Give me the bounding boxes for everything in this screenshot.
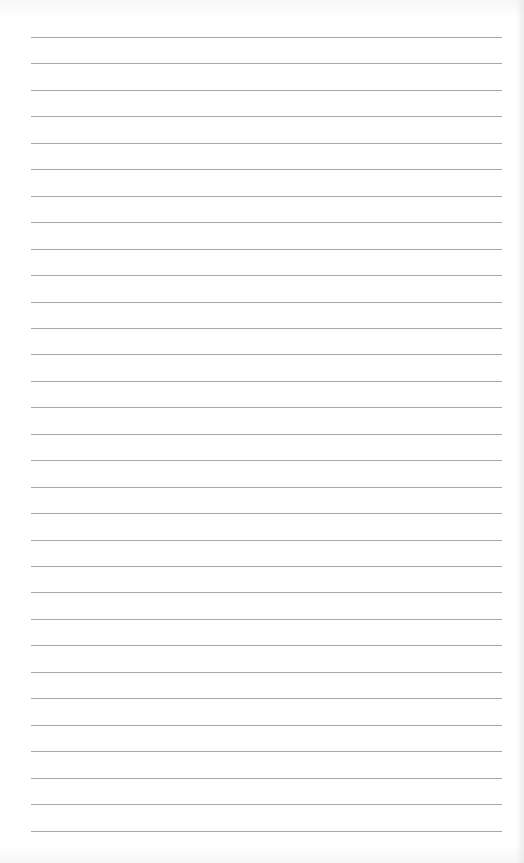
ruled-line [31,725,502,726]
ruled-line [31,328,502,329]
ruled-line [31,222,502,223]
ruled-line [31,592,502,593]
ruled-line [31,169,502,170]
ruled-line [31,778,502,779]
ruled-line [31,645,502,646]
ruled-line [31,831,502,832]
ruled-line [31,434,502,435]
ruled-line [31,249,502,250]
ruled-line [31,143,502,144]
ruled-line [31,460,502,461]
ruled-line [31,37,502,38]
ruled-line [31,90,502,91]
ruled-line [31,116,502,117]
ruled-line [31,804,502,805]
ruled-line [31,566,502,567]
ruled-line [31,354,502,355]
ruled-line [31,381,502,382]
page-edge-shadow [516,0,524,863]
ruled-line [31,487,502,488]
ruled-line [31,196,502,197]
ruled-line [31,540,502,541]
ruled-line [31,63,502,64]
lined-paper-sheet [0,0,524,863]
ruled-line [31,698,502,699]
ruled-line [31,302,502,303]
ruled-line [31,275,502,276]
ruled-line [31,751,502,752]
ruled-line [31,619,502,620]
ruled-line [31,672,502,673]
ruled-line [31,513,502,514]
ruled-line [31,407,502,408]
